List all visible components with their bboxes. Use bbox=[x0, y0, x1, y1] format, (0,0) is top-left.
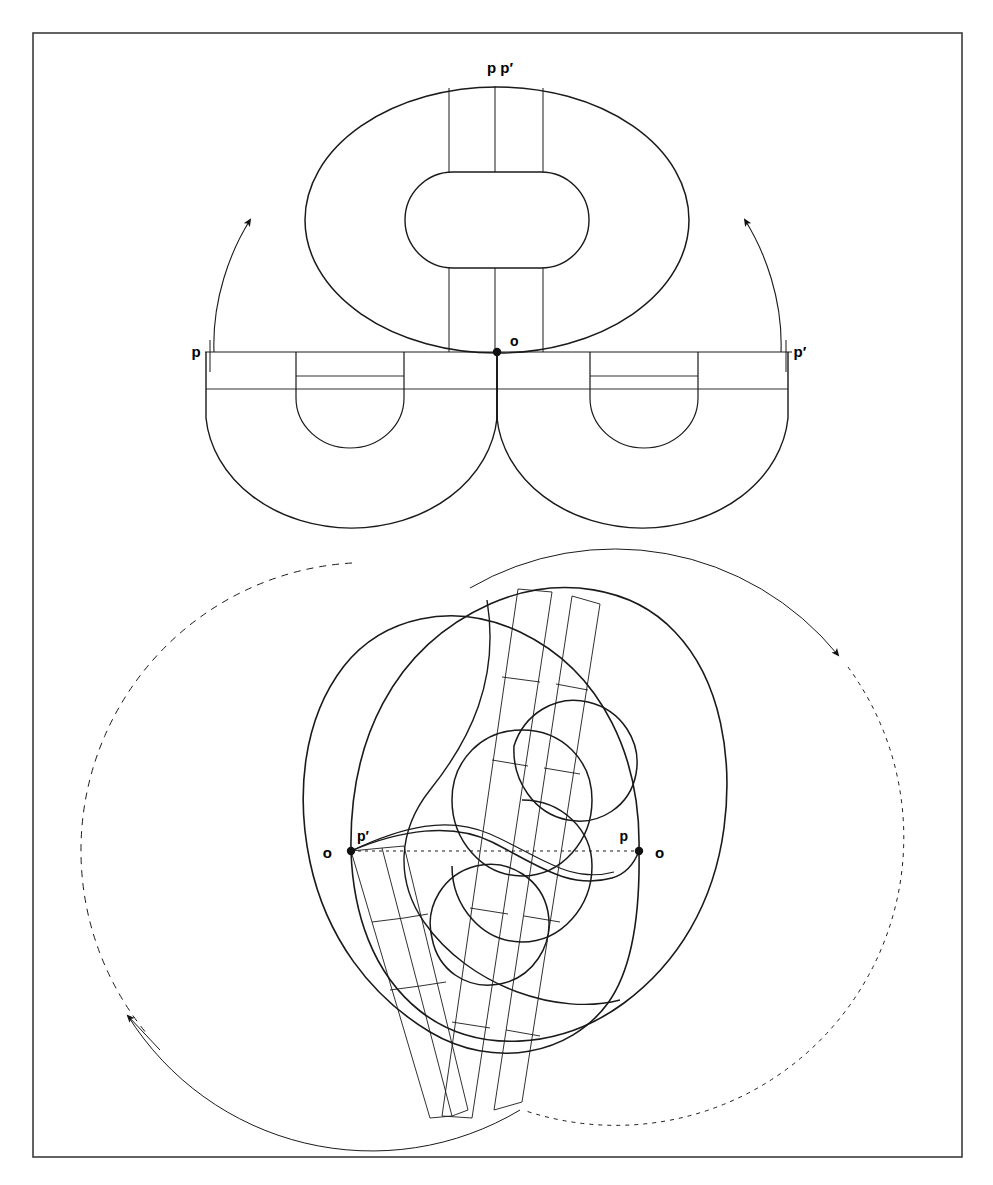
upper-left-lobe-inner bbox=[296, 352, 404, 448]
figure-page: p p′ p p′ o bbox=[0, 0, 993, 1185]
label-pp-top: p p′ bbox=[487, 59, 513, 76]
lower-left-orbit-dashed bbox=[81, 563, 352, 1034]
lower-hole-lower-left bbox=[430, 864, 549, 985]
figure-svg: p p′ p p′ o bbox=[0, 0, 993, 1185]
upper-band-lines bbox=[449, 86, 543, 352]
lower-right-dot bbox=[635, 847, 643, 855]
upper-diagram: p p′ p p′ o bbox=[191, 59, 806, 528]
label-o-far-left: o bbox=[323, 844, 332, 861]
lower-s-curve bbox=[351, 830, 639, 881]
label-p-prime-right: p′ bbox=[794, 343, 807, 360]
lower-right-orbit-solid bbox=[470, 549, 838, 655]
lower-left-orbit-arrowhead bbox=[128, 1016, 160, 1050]
label-p-right: p bbox=[619, 828, 628, 844]
lower-right-orbit-dotted bbox=[523, 667, 904, 1125]
upper-right-lobe-outer bbox=[497, 352, 788, 528]
lower-spine-curve bbox=[404, 600, 620, 1004]
label-p-prime-left: p′ bbox=[357, 828, 370, 844]
upper-center-dot bbox=[493, 348, 501, 356]
label-o-far-right: o bbox=[655, 844, 664, 861]
upper-outer-ring bbox=[305, 87, 689, 353]
lower-central-lobe-lower bbox=[452, 800, 592, 942]
lower-central-lobe-upper bbox=[452, 730, 592, 876]
upper-inner-hole bbox=[405, 172, 589, 268]
upper-arrow-right bbox=[745, 220, 781, 352]
lower-band-strips bbox=[351, 589, 600, 1118]
plate-border bbox=[33, 33, 962, 1157]
upper-arrow-left bbox=[214, 220, 250, 352]
upper-left-lobe-outer bbox=[206, 352, 497, 528]
label-o-center: o bbox=[510, 333, 519, 349]
lower-left-dot bbox=[347, 847, 355, 855]
label-p-left: p bbox=[191, 343, 200, 360]
upper-right-lobe-inner bbox=[590, 352, 698, 448]
lower-diagram: o p′ p o bbox=[81, 549, 904, 1151]
